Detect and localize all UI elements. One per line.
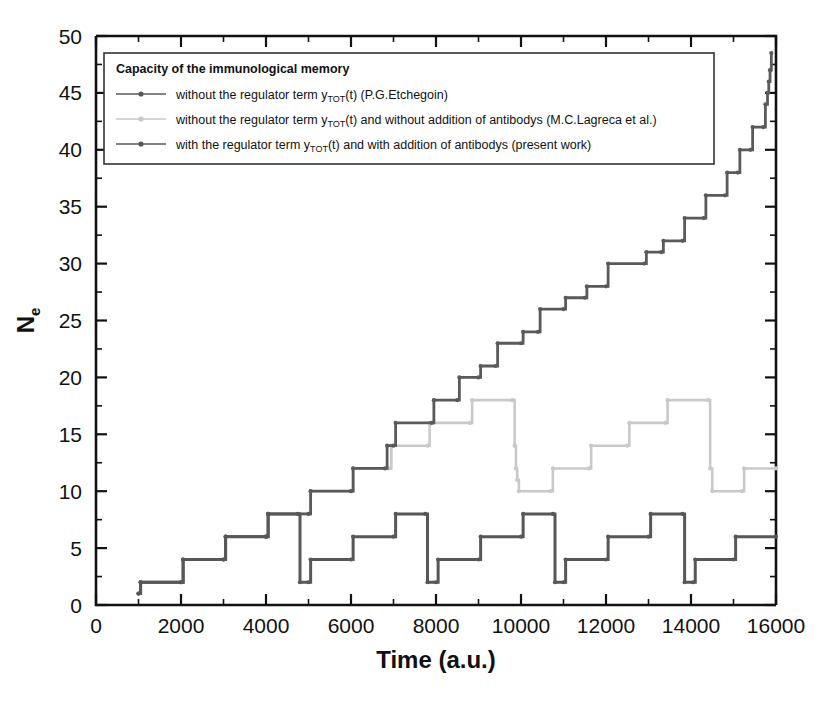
data-point [604, 284, 608, 288]
data-point [479, 535, 483, 539]
data-point [549, 489, 553, 493]
data-point [496, 341, 500, 345]
data-point [493, 364, 497, 368]
x-tick-label: 4000 [243, 614, 290, 637]
y-axis-title-subscript: e [26, 308, 43, 316]
legend-label-subscript: TOT [327, 94, 345, 104]
data-point [740, 489, 744, 493]
data-point [708, 466, 712, 470]
series-present-work [136, 512, 778, 596]
legend-label-post: (t) and with addition of antibodys (pres… [328, 138, 591, 152]
data-point [663, 421, 667, 425]
x-axis-title: Time (a.u.) [376, 646, 496, 673]
data-point [476, 557, 480, 561]
data-point [383, 466, 387, 470]
data-point [606, 262, 610, 266]
data-point [476, 375, 480, 379]
data-point [589, 444, 593, 448]
y-axis-title: Ne [12, 308, 43, 334]
data-point [309, 489, 313, 493]
legend-label-subscript: TOT [327, 119, 345, 129]
data-point [264, 535, 268, 539]
data-point [455, 398, 459, 402]
data-point [748, 148, 752, 152]
x-tick-label: 16000 [747, 614, 805, 637]
data-point [391, 444, 395, 448]
data-point [221, 557, 225, 561]
data-point [519, 535, 523, 539]
data-point [457, 375, 461, 379]
x-tick-label: 8000 [413, 614, 460, 637]
y-tick-label: 20 [59, 366, 82, 389]
data-point [468, 421, 472, 425]
data-point [296, 512, 300, 516]
data-point [691, 580, 695, 584]
legend-marker-dot [138, 91, 143, 96]
data-point [587, 466, 591, 470]
data-point [266, 512, 270, 516]
legend-label-post: (t) and without addition of antibodys (M… [345, 113, 656, 127]
data-point [769, 51, 773, 55]
data-point [731, 557, 735, 561]
data-point [763, 102, 767, 106]
data-point [551, 512, 555, 516]
data-point [536, 330, 540, 334]
x-tick-label: 10000 [492, 614, 550, 637]
data-point [680, 512, 684, 516]
data-point [510, 398, 514, 402]
x-tick-label: 12000 [577, 614, 635, 637]
data-point [659, 250, 663, 254]
data-point [224, 535, 228, 539]
data-point [136, 592, 140, 596]
data-point [434, 580, 438, 584]
data-point [351, 535, 355, 539]
chart-canvas: 0510152025303540455002000400060008000100… [0, 0, 822, 703]
data-point [702, 216, 706, 220]
x-tick-label: 2000 [158, 614, 205, 637]
data-point [642, 262, 646, 266]
data-point [710, 489, 714, 493]
data-point [649, 512, 653, 516]
data-point [517, 489, 521, 493]
data-point [179, 580, 183, 584]
data-point [583, 296, 587, 300]
data-point [561, 307, 565, 311]
data-point [181, 557, 185, 561]
legend-label-subscript: TOT [310, 144, 328, 154]
data-point [513, 444, 517, 448]
legend-label-post: (t) (P.G.Etchegoin) [345, 88, 448, 102]
data-point [706, 398, 710, 402]
data-point [704, 193, 708, 197]
legend-marker-dot [138, 141, 143, 146]
y-tick-label: 40 [59, 138, 82, 161]
data-point [661, 239, 665, 243]
data-point [767, 79, 771, 83]
y-tick-label: 35 [59, 195, 82, 218]
series-line-lagreca [139, 400, 777, 593]
y-tick-label: 30 [59, 252, 82, 275]
data-point [666, 398, 670, 402]
data-point [723, 193, 727, 197]
data-point [519, 341, 523, 345]
data-point [768, 68, 772, 72]
data-point [385, 444, 389, 448]
data-point [479, 364, 483, 368]
data-point [734, 535, 738, 539]
series-line-present-work [139, 514, 777, 594]
y-tick-label: 0 [70, 594, 82, 617]
data-point [423, 512, 427, 516]
y-tick-label: 10 [59, 480, 82, 503]
data-point [538, 307, 542, 311]
legend-label-pre: without the regulator term y [175, 113, 328, 127]
series-lagreca [136, 398, 778, 596]
y-tick-label: 15 [59, 423, 82, 446]
x-tick-label: 14000 [662, 614, 720, 637]
data-point [751, 125, 755, 129]
data-point [564, 557, 568, 561]
data-point [521, 512, 525, 516]
data-point [644, 250, 648, 254]
data-point [436, 557, 440, 561]
data-point [306, 580, 310, 584]
data-point [736, 170, 740, 174]
data-point [765, 91, 769, 95]
